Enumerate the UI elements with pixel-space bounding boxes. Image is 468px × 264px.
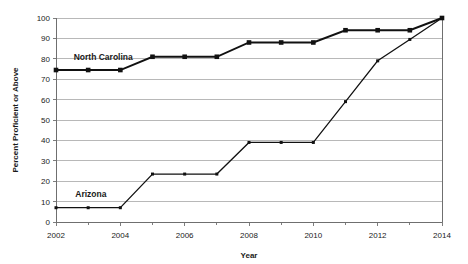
- data-point-marker: [54, 68, 59, 73]
- y-tick-label: 30: [41, 157, 50, 166]
- data-point-marker: [312, 141, 315, 144]
- data-point-marker: [55, 206, 58, 209]
- data-point-marker: [408, 28, 413, 33]
- series-line: [56, 18, 442, 208]
- y-tick-label: 70: [41, 75, 50, 84]
- data-point-marker: [344, 100, 347, 103]
- series-inline-labels: North CarolinaArizona: [74, 52, 133, 199]
- y-tick-label: 20: [41, 177, 50, 186]
- series-label: Arizona: [75, 189, 106, 199]
- data-point-marker: [151, 173, 154, 176]
- data-point-marker: [183, 173, 186, 176]
- data-point-marker: [311, 40, 316, 45]
- data-point-marker: [375, 28, 380, 33]
- y-tick-label: 40: [41, 136, 50, 145]
- line-chart: 0102030405060708090100 20022004200620082…: [0, 0, 468, 264]
- data-point-marker: [279, 40, 284, 45]
- data-point-marker: [408, 38, 411, 41]
- data-point-marker: [215, 173, 218, 176]
- data-point-marker: [215, 54, 220, 59]
- y-tick-label: 90: [41, 34, 50, 43]
- x-tick-label: 2012: [369, 231, 387, 240]
- x-tick-label: 2014: [433, 231, 451, 240]
- data-point-marker: [376, 59, 379, 62]
- x-tick-label: 2004: [111, 231, 129, 240]
- x-tick-label: 2006: [176, 231, 194, 240]
- data-point-marker: [87, 206, 90, 209]
- y-tick-label: 50: [41, 116, 50, 125]
- y-tick-labels: 0102030405060708090100: [37, 14, 51, 227]
- y-tick-label: 10: [41, 198, 50, 207]
- y-tick-label: 0: [46, 218, 51, 227]
- x-axis-title: Year: [241, 251, 258, 260]
- data-point-marker: [248, 141, 251, 144]
- y-axis-title: Percent Proficient or Above: [11, 67, 20, 173]
- data-point-marker: [150, 54, 155, 59]
- data-point-marker: [343, 28, 348, 33]
- y-tick-label: 60: [41, 96, 50, 105]
- data-point-marker: [182, 54, 187, 59]
- x-tick-label: 2002: [47, 231, 65, 240]
- y-tick-label: 80: [41, 55, 50, 64]
- x-tick-label: 2008: [240, 231, 258, 240]
- gridlines-group: [56, 18, 442, 222]
- data-point-marker: [86, 68, 91, 73]
- x-tick-group: [56, 222, 442, 226]
- data-point-marker: [119, 206, 122, 209]
- chart-container: 0102030405060708090100 20022004200620082…: [0, 0, 468, 264]
- x-tick-label: 2010: [304, 231, 322, 240]
- x-tick-labels: 2002200420062008201020122014: [47, 231, 451, 240]
- series-layer: [54, 16, 445, 210]
- data-point-marker: [280, 141, 283, 144]
- data-point-marker: [118, 68, 123, 73]
- series-label: North Carolina: [74, 52, 133, 62]
- y-tick-label: 100: [37, 14, 51, 23]
- data-point-marker: [247, 40, 252, 45]
- data-point-marker: [441, 17, 444, 20]
